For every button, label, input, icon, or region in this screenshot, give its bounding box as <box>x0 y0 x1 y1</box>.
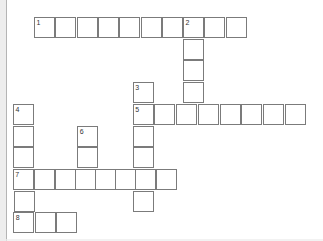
crossword-cell[interactable] <box>133 147 154 168</box>
crossword-cell[interactable] <box>77 147 98 168</box>
cell-number: 7 <box>14 170 33 178</box>
crossword-cell-1[interactable]: 1 <box>34 17 55 38</box>
crossword-cell[interactable] <box>183 82 204 103</box>
crossword-cell[interactable] <box>95 169 116 190</box>
crossword-cell[interactable] <box>162 17 183 38</box>
cell-number: 5 <box>134 105 153 113</box>
crossword-cell[interactable] <box>198 104 219 125</box>
crossword-cell[interactable] <box>220 104 241 125</box>
crossword-cell[interactable] <box>183 60 204 81</box>
crossword-cell[interactable] <box>141 17 162 38</box>
crossword-grid: 12345678 <box>0 0 323 241</box>
crossword-cell[interactable] <box>77 17 98 38</box>
crossword-cell[interactable] <box>263 104 284 125</box>
crossword-cell[interactable] <box>13 147 34 168</box>
crossword-cell[interactable] <box>176 104 197 125</box>
cell-number: 2 <box>184 18 203 26</box>
crossword-cell[interactable] <box>55 169 76 190</box>
crossword-cell-6[interactable]: 6 <box>77 126 98 147</box>
crossword-cell[interactable] <box>183 39 204 60</box>
crossword-cell[interactable] <box>35 212 56 233</box>
crossword-cell[interactable] <box>285 104 306 125</box>
crossword-cell-8[interactable]: 8 <box>13 212 34 233</box>
crossword-cell[interactable] <box>115 169 136 190</box>
crossword-cell-3[interactable]: 3 <box>133 82 154 103</box>
crossword-cell-5[interactable]: 5 <box>133 104 154 125</box>
crossword-cell[interactable] <box>119 17 140 38</box>
cell-number: 8 <box>14 213 33 221</box>
crossword-cell[interactable] <box>241 104 262 125</box>
crossword-cell[interactable] <box>75 169 96 190</box>
crossword-cell[interactable] <box>98 17 119 38</box>
crossword-cell[interactable] <box>156 169 177 190</box>
page: 12345678 <box>0 0 323 241</box>
crossword-cell[interactable] <box>56 212 77 233</box>
crossword-cell-2[interactable]: 2 <box>183 17 204 38</box>
cell-number: 6 <box>78 127 97 135</box>
crossword-cell[interactable] <box>55 17 76 38</box>
crossword-cell[interactable] <box>154 104 175 125</box>
crossword-cell[interactable] <box>226 17 247 38</box>
crossword-cell[interactable] <box>204 17 225 38</box>
crossword-cell-4[interactable]: 4 <box>13 104 34 125</box>
crossword-cell[interactable] <box>13 126 34 147</box>
crossword-cell[interactable] <box>133 191 154 212</box>
crossword-cell[interactable] <box>133 126 154 147</box>
cell-number: 4 <box>14 105 33 113</box>
crossword-cell-7[interactable]: 7 <box>13 169 34 190</box>
cell-number: 3 <box>134 83 153 91</box>
crossword-cell[interactable] <box>34 169 55 190</box>
cell-number: 1 <box>35 18 54 26</box>
crossword-cell[interactable] <box>135 169 156 190</box>
crossword-cell[interactable] <box>14 191 35 212</box>
